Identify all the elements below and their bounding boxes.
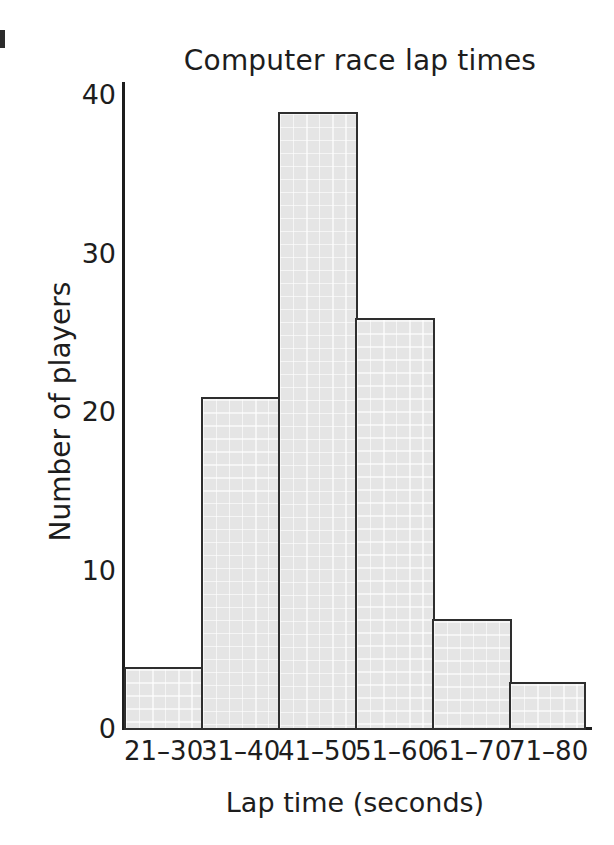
bar xyxy=(509,682,586,730)
bar xyxy=(201,397,281,730)
x-tick-label: 61–70 xyxy=(432,736,509,766)
bar xyxy=(278,112,358,730)
x-tick-label: 51–60 xyxy=(355,736,432,766)
x-tick-label: 71–80 xyxy=(509,736,586,766)
x-tick-label: 31–40 xyxy=(201,736,278,766)
x-axis-label: Lap time (seconds) xyxy=(124,787,586,818)
chart-title: Computer race lap times xyxy=(140,44,580,77)
bar xyxy=(355,318,435,730)
scan-edge-artifact xyxy=(0,30,5,48)
bar xyxy=(124,667,204,730)
y-tick-label: 30 xyxy=(60,237,116,268)
y-tick-label: 20 xyxy=(60,396,116,427)
x-tick-label: 41–50 xyxy=(278,736,355,766)
bar xyxy=(432,619,512,730)
chart-figure: Computer race lap times Number of player… xyxy=(0,0,614,845)
y-tick-label: 0 xyxy=(60,713,116,744)
y-tick-label: 10 xyxy=(60,554,116,585)
x-axis-tick-labels: 21–3031–4041–5051–6061–7071–80 xyxy=(124,736,586,782)
y-tick-label: 40 xyxy=(60,79,116,110)
x-tick-label: 21–30 xyxy=(124,736,201,766)
plot-area xyxy=(124,80,586,729)
y-axis-tick-labels: 010203040 xyxy=(54,0,116,845)
